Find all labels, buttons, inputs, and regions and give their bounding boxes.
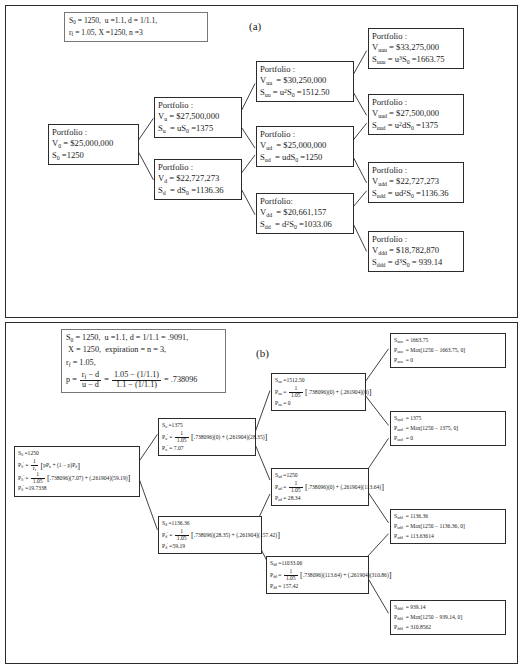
node-value: V0 = $25,000,000 — [52, 138, 135, 150]
node-stock: Suud = u2dS0 =1375 — [372, 120, 460, 132]
node-terminal-udd: Sudd = 1136.36 Pudd = Max[1250 − 1136.36… — [390, 509, 506, 544]
node-result: Pudd = 113.63614 — [394, 532, 502, 542]
node-terminal-ddd: Sddd = 939.14 Pddd = Max[1250 − 939.14, … — [390, 600, 506, 635]
node-stock: S0 =1250 — [52, 150, 135, 162]
node-formula-numeric: P0′ = 11.05 [.738096)(7.07) + (.261904)(… — [18, 472, 136, 485]
node-stock: Sdd = d2S0 =1033.06 — [260, 219, 350, 231]
node-portfolio-ud: Portfolio : Vud = $25,000,000 Sud = udS0… — [256, 126, 354, 167]
param-line-2: X = 1250, expiration = n = 3, — [66, 344, 221, 356]
node-formula-numeric: Pdd = 11.05 [.738096)(113.64) + (.261904… — [270, 569, 365, 582]
node-terminal-uud: Suud = 1375 Puud = Max[1250 − 1375, 0] P… — [390, 411, 506, 446]
node-result: Pu′ = 7.07 — [162, 444, 252, 454]
node-value: Vuuu = $33,275,000 — [372, 42, 460, 54]
node-stock: Suu = u2S0 =1512.50 — [260, 87, 350, 99]
node-portfolio-root: Portfolio : V0 = $25,000,000 S0 =1250 — [48, 124, 139, 165]
node-title: Portfolio : — [158, 162, 238, 173]
node-formula-numeric: Pud = 11.05 [.738096)(0) + (.261904)(113… — [275, 481, 365, 494]
node-portfolio-u: Portfolio : Vu = $27,500,000 Su = uS0 =1… — [154, 97, 242, 138]
node-stock: Suuu = u3S0 =1663.75 — [372, 54, 460, 66]
panel-a-parameters-box: S0 = 1250, u =1.1, d = 1/1.1, rf = 1.05,… — [64, 12, 208, 42]
node-portfolio-dd: Portfolio: Vdd = $20,661,157 Sdd = d2S0 … — [256, 193, 354, 234]
node-portfolio-d: Portfolio : Vd = $22,727,273 Sd = dS0 =1… — [154, 159, 242, 200]
node-stock: Sd = dS0 =1136.36 — [158, 185, 238, 197]
node-value: Vud = $25,000,000 — [260, 140, 350, 152]
param-line-1: S0 = 1250, u =1.1, d = 1/1.1 = .9091, — [66, 332, 221, 344]
node-portfolio-ddd: Portfolio : Vddd = $18,782,870 Sddd = d3… — [368, 231, 464, 272]
node-terminal-uuu: Suuu = 1663.75 Puuu = Max[1250 − 1663.75… — [390, 333, 506, 368]
panel-b-label: (b) — [256, 347, 269, 359]
node-price-u: Su =1375 Pu′ = 11.05 [.738096)(0) + (.26… — [158, 418, 256, 456]
param-line-3: rf = 1.05, — [66, 357, 221, 369]
node-title: Portfolio : — [260, 129, 350, 140]
param-line-2: rf = 1.05, X =1250, n =3 — [69, 27, 203, 39]
param-p-formula: p = rf − du − d = 1.05 − (1/1.1)1.1 − (1… — [66, 371, 221, 390]
node-result: Puu = 0 — [275, 399, 362, 409]
node-value: Vuud = $27,500,000 — [372, 108, 460, 120]
node-price-uu: Suu =1512.50 Puu = 11.05 [.738096)(0) + … — [271, 373, 366, 411]
node-formula-numeric: Puu = 11.05 [.738096)(0) + (.261904)(0)] — [275, 386, 362, 399]
node-result: Pddd = 310.8562 — [394, 623, 502, 633]
node-portfolio-uu: Portfolio : Vuu = $30,250,000 Suu = u2S0… — [256, 61, 354, 102]
node-title: Portfolio : — [372, 97, 460, 108]
node-formula-generic: P0′ = 1rf [pPu + (1 − p)Pd] — [18, 459, 136, 472]
node-stock: Su =1375 — [162, 421, 252, 431]
node-value: Vdd = $20,661,157 — [260, 207, 350, 219]
node-price-ud: Sud =1250 Pud = 11.05 [.738096)(0) + (.2… — [271, 468, 369, 506]
node-value: Vuu = $30,250,000 — [260, 75, 350, 87]
param-line-1: S0 = 1250, u =1.1, d = 1/1.1, — [69, 15, 203, 27]
node-price-dd: Sdd =11033.06 Pdd = 11.05 [.738096)(113.… — [266, 556, 369, 594]
node-price-d: Sd =1136.36 Pd′ = 11.05 [.738096)(28.35)… — [158, 516, 262, 554]
node-stock: Sddd = d3S0 = 939.14 — [372, 257, 460, 269]
node-result: Puuu = 0 — [394, 356, 502, 366]
node-stock: Suu =1512.50 — [275, 376, 362, 386]
node-stock: Suuu = 1663.75 — [394, 336, 502, 346]
node-stock: Sdd =11033.06 — [270, 559, 365, 569]
node-payoff: Pddd = Max[1250 − 939.14, 0] — [394, 613, 502, 623]
node-stock: Suud = 1375 — [394, 414, 502, 424]
node-stock: Sudd = ud2S0 =1136.36 — [372, 188, 460, 200]
node-formula-numeric: Pu′ = 11.05 [.738096)(0) + (.261904)(28.… — [162, 431, 252, 444]
node-stock: Sddd = 939.14 — [394, 603, 502, 613]
node-portfolio-udd: Portfolio : Vudd = $22,727,273 Sudd = ud… — [368, 162, 464, 203]
node-stock: Sudd = 1136.36 — [394, 512, 502, 522]
node-title: Portfolio: — [260, 196, 350, 207]
node-value: Vudd = $22,727,273 — [372, 176, 460, 188]
node-payoff: Puuu = Max[1250 − 1663.75, 0] — [394, 346, 502, 356]
node-title: Portfolio : — [372, 234, 460, 245]
panel-b: S0 = 1250, u =1.1, d = 1/1.1 = .9091, X … — [5, 322, 518, 664]
node-value: Vu = $27,500,000 — [158, 111, 238, 123]
node-portfolio-uud: Portfolio : Vuud = $27,500,000 Suud = u2… — [368, 94, 464, 135]
node-portfolio-uuu: Portfolio : Vuuu = $33,275,000 Suuu = u3… — [368, 28, 464, 69]
node-result: Puud = 0 — [394, 434, 502, 444]
node-value: Vd = $22,727,273 — [158, 173, 238, 185]
node-stock: Sud =1250 — [275, 471, 365, 481]
node-result: Pud = 28.34 — [275, 494, 365, 504]
node-value: Vddd = $18,782,870 — [372, 245, 460, 257]
node-formula-numeric: Pd′ = 11.05 [.738096)(28.35) + (.261904)… — [162, 529, 258, 542]
node-payoff: Pudd = Max[1250 − 1136.36, 0] — [394, 522, 502, 532]
node-title: Portfolio : — [372, 165, 460, 176]
node-price-root: S0 =1250 P0′ = 1rf [pPu + (1 − p)Pd] P0′… — [14, 446, 140, 497]
node-title: Portfolio : — [52, 127, 135, 138]
node-stock: Su = uS0 =1375 — [158, 123, 238, 135]
panel-a: S0 = 1250, u =1.1, d = 1/1.1, rf = 1.05,… — [5, 5, 518, 318]
figure-root: S0 = 1250, u =1.1, d = 1/1.1, rf = 1.05,… — [0, 0, 523, 669]
node-payoff: Puud = Max[1250 − 1375, 0] — [394, 424, 502, 434]
node-title: Portfolio : — [158, 100, 238, 111]
node-stock: Sd =1136.36 — [162, 519, 258, 529]
panel-a-label: (a) — [249, 20, 261, 32]
panel-b-parameters-box: S0 = 1250, u =1.1, d = 1/1.1 = .9091, X … — [61, 329, 226, 393]
node-stock: Sud = udS0 =1250 — [260, 152, 350, 164]
node-title: Portfolio : — [372, 31, 460, 42]
node-result: Pd′ =59.19 — [162, 542, 258, 552]
node-result: P0′ =19.7338 — [18, 484, 136, 494]
node-title: Portfolio : — [260, 64, 350, 75]
node-result: Pdd = 157.42 — [270, 582, 365, 592]
